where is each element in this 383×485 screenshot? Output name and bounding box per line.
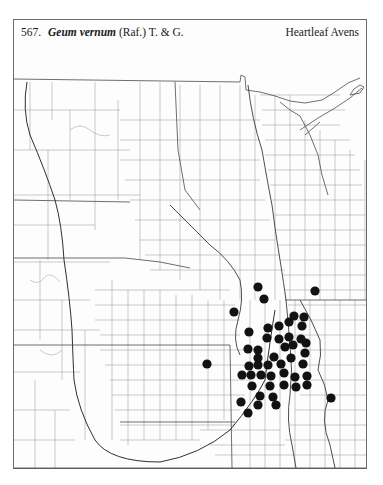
- occurrence-dot: [229, 307, 238, 316]
- occurrence-dot: [284, 317, 293, 326]
- occurrence-dot: [253, 282, 262, 291]
- rivers: [170, 85, 335, 468]
- state-boundaries: [14, 75, 366, 468]
- occurrence-dot: [247, 381, 256, 390]
- occurrence-dot: [243, 408, 252, 417]
- occurrence-dot: [259, 294, 268, 303]
- occurrence-dot: [271, 400, 280, 409]
- occurrence-dot: [274, 321, 283, 330]
- occurrence-dot: [286, 353, 295, 362]
- occurrence-dot: [269, 352, 278, 361]
- occurrence-dot: [291, 382, 300, 391]
- occurrence-dot: [237, 370, 246, 379]
- occurrence-dot: [244, 327, 253, 336]
- occurrence-dot: [253, 400, 262, 409]
- occurrence-dot: [202, 359, 211, 368]
- occurrence-dot: [253, 345, 262, 354]
- occurrence-dot: [284, 332, 293, 341]
- occurrence-dot: [301, 338, 310, 347]
- occurrence-dot: [268, 392, 277, 401]
- occurrence-dot: [246, 370, 255, 379]
- occurrence-dot: [244, 361, 253, 370]
- occurrence-dot: [243, 344, 252, 353]
- occurrence-dot: [263, 360, 272, 369]
- county-grid: [14, 82, 366, 468]
- occurrence-dot: [326, 393, 335, 402]
- occurrence-dot: [279, 368, 288, 377]
- occurrence-dot: [302, 371, 311, 380]
- occurrence-dot: [297, 321, 306, 330]
- occurrence-dot: [265, 381, 274, 390]
- occurrence-dot: [279, 380, 288, 389]
- occurrence-dot: [288, 340, 297, 349]
- occurrence-dot: [290, 372, 299, 381]
- occurrence-dot: [253, 360, 262, 369]
- occurrence-dot: [262, 333, 271, 342]
- occurrence-dot: [302, 380, 311, 389]
- occurrence-dot: [274, 334, 283, 343]
- occurrence-dot: [255, 391, 264, 400]
- occurrence-dot: [300, 348, 309, 357]
- occurrence-dot: [310, 286, 319, 295]
- occurrence-dot: [276, 359, 285, 368]
- occurrence-dot: [266, 371, 275, 380]
- distribution-map: [0, 0, 383, 485]
- occurrence-dot: [263, 323, 272, 332]
- occurrence-dot: [299, 312, 308, 321]
- range-boundary-line: [25, 82, 275, 462]
- occurrence-dot: [236, 397, 245, 406]
- occurrence-dot: [280, 342, 289, 351]
- occurrence-dot: [256, 370, 265, 379]
- occurrence-dot: [298, 359, 307, 368]
